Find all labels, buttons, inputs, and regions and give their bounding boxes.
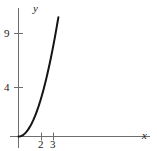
y-tick-label-9: 9 [4,28,10,39]
data-curve-polyline [19,17,59,136]
x-axis-label: x [142,130,147,141]
figure-container: y x 9 4 2 3 [0,0,157,151]
x-tick-label-2: 2 [38,139,44,150]
y-axis-label: y [33,3,38,14]
plot-area [0,0,157,151]
x-tick-label-3: 3 [50,139,56,150]
y-tick-label-4: 4 [4,82,10,93]
